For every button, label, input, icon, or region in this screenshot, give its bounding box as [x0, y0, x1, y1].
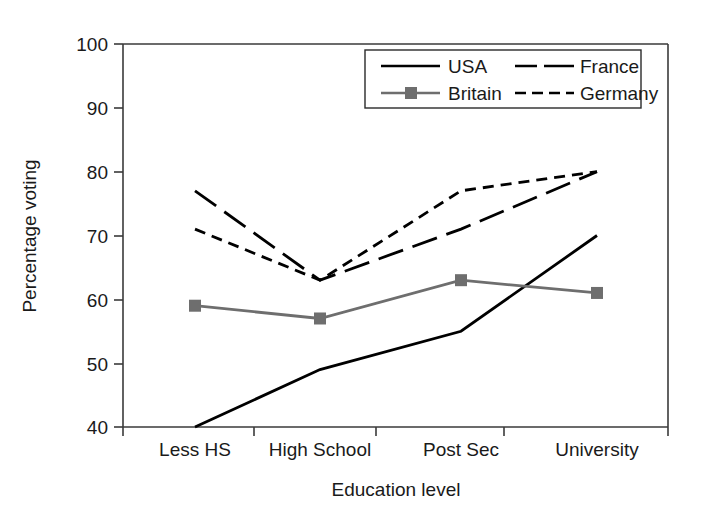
series-markers-britain [189, 274, 603, 324]
series-line-usa [195, 236, 597, 428]
y-tick-label-50: 50 [87, 354, 108, 375]
y-axis-title: Percentage voting [19, 159, 40, 312]
series-line-germany [195, 172, 597, 281]
x-tick-labels: Less HS High School Post Sec University [159, 439, 639, 460]
y-tick-label-60: 60 [87, 290, 108, 311]
legend-label-france: France [580, 56, 639, 77]
y-tick-labels: 100 90 80 70 60 50 40 [76, 34, 108, 438]
data-point-marker [591, 287, 603, 299]
data-series-group [189, 172, 603, 427]
x-axis-title: Education level [332, 479, 461, 500]
series-line-britain [195, 280, 597, 318]
x-tick-label-less-hs: Less HS [159, 439, 231, 460]
x-tick-label-post-sec: Post Sec [423, 439, 499, 460]
x-tick-marks [123, 427, 668, 436]
y-tick-label-70: 70 [87, 226, 108, 247]
data-point-marker [455, 274, 467, 286]
y-tick-label-80: 80 [87, 162, 108, 183]
y-tick-label-40: 40 [87, 417, 108, 438]
legend-marker-britain [405, 87, 417, 99]
chart-legend: USA France Britain Germany [365, 50, 659, 108]
x-tick-label-high-school: High School [269, 439, 371, 460]
legend-label-germany: Germany [580, 83, 659, 104]
chart-figure: 100 90 80 70 60 50 40 Less HS High Schoo… [0, 0, 704, 519]
line-chart: 100 90 80 70 60 50 40 Less HS High Schoo… [0, 0, 704, 519]
data-point-marker [314, 312, 326, 324]
legend-label-britain: Britain [448, 83, 502, 104]
y-tick-marks [114, 44, 123, 427]
y-tick-label-100: 100 [76, 34, 108, 55]
y-tick-label-90: 90 [87, 98, 108, 119]
series-line-france [195, 172, 597, 281]
x-tick-label-university: University [555, 439, 639, 460]
legend-label-usa: USA [448, 56, 487, 77]
data-point-marker [189, 300, 201, 312]
